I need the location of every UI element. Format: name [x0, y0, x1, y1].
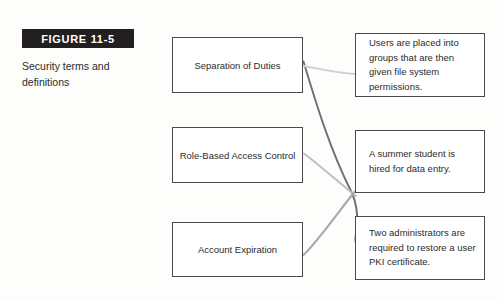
figure-page: FIGURE 11-5 Security terms and definitio… [0, 0, 502, 301]
connector-role-based-to-summer-student [304, 154, 356, 197]
term-label: Separation of Duties [194, 60, 280, 71]
term-box-role-based-access-control[interactable]: Role-Based Access Control [172, 127, 303, 183]
definition-box-two-administrators[interactable]: Two administrators are required to resto… [355, 216, 485, 280]
definition-box-groups[interactable]: Users are placed into groups that are th… [355, 33, 485, 97]
connector-separation-to-two-admins [304, 62, 358, 230]
definition-box-summer-student[interactable]: A summer student is hired for data entry… [355, 130, 485, 193]
term-label: Role-Based Access Control [180, 150, 296, 161]
definition-label: A summer student is hired for data entry… [356, 147, 484, 176]
term-box-account-expiration[interactable]: Account Expiration [172, 222, 303, 277]
term-box-separation-of-duties[interactable]: Separation of Duties [172, 37, 303, 93]
definition-label: Users are placed into groups that are th… [356, 36, 484, 94]
matching-diagram: Separation of Duties Role-Based Access C… [0, 0, 502, 301]
definition-label: Two administrators are required to resto… [356, 226, 484, 270]
connector-separation-to-groups [304, 66, 356, 74]
term-label: Account Expiration [198, 244, 277, 255]
